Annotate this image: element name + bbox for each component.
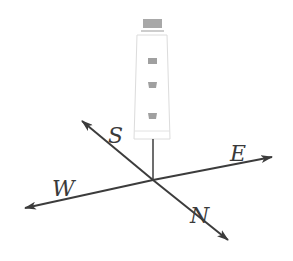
label-north: N [189,203,210,228]
lighthouse-lamp [143,19,162,28]
lighthouse-window [148,58,157,64]
label-east: E [229,141,246,166]
lighthouse-window [148,82,157,88]
west-arrow [25,180,153,208]
label-west: W [52,176,77,201]
lighthouse-window [148,113,157,119]
label-south: S [108,123,123,148]
compass-lighthouse-diagram: S E W N [0,0,293,261]
lighthouse [134,19,170,139]
east-arrow [153,157,272,180]
